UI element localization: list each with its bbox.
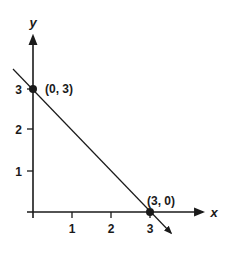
y-axis-label: y [28,15,37,30]
y-ticks [27,89,33,171]
x-axis-label: x [209,205,218,220]
point-label-0-3: (0, 3) [45,82,73,96]
point-0-3 [29,85,37,93]
x-tick-label-3: 3 [147,222,154,236]
x-tick-label-2: 2 [108,222,115,236]
x-tick-label-1: 1 [69,222,76,236]
y-tick-label-1: 1 [15,165,22,179]
point-label-3-0: (3, 0) [147,194,175,208]
x-ticks [72,212,150,218]
y-tick-label-3: 3 [15,83,22,97]
y-tick-label-2: 2 [15,123,22,137]
point-3-0 [146,208,154,216]
data-line [13,69,171,233]
chart-canvas: 1 2 3 3 2 1 y x (0, 3) (3, 0) [0,0,230,276]
